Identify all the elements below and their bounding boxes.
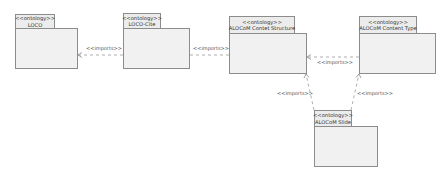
package-name: ALOCoM Content Type: [359, 25, 416, 32]
edge-label-slide-to-cs: <<imports>>: [277, 90, 313, 96]
package-body: [359, 33, 436, 74]
package-name: ALOCoM Contet Structure: [229, 25, 295, 32]
package-tab: <<ontology>> ALOCoM Contet Structure: [229, 16, 295, 34]
package-tab: <<ontology>> LOCO: [15, 14, 55, 29]
package-body: [314, 126, 378, 167]
package-body: [229, 33, 307, 74]
package-tab: <<ontology>> ALOCoM Slide: [314, 110, 352, 127]
package-tab: <<ontology>> ALOCoM Content Type: [359, 16, 417, 34]
arrowhead-icon: [304, 74, 309, 78]
package-name: LOCO-Cite: [129, 21, 156, 28]
edge-label-slide-to-ct: <<imports>>: [357, 90, 393, 96]
package-body: [15, 28, 78, 69]
package-name: ALOCoM Slide: [315, 119, 351, 126]
arrowhead-icon: [356, 74, 361, 78]
package-tab: <<ontology>> LOCO-Cite: [123, 13, 161, 29]
edge-label-ct-to-cs: <<imports>>: [317, 59, 353, 65]
package-body: [123, 28, 190, 69]
edge-label-loco-cite-to-loco: <<imports>>: [86, 45, 122, 51]
edge-label-cs-to-loco-cite: <<imports>>: [193, 45, 229, 51]
